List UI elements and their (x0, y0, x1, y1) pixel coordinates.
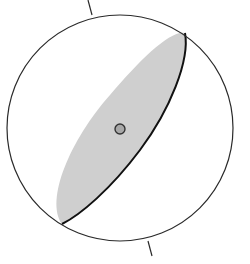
south-tick (148, 241, 152, 256)
pole-point (115, 124, 125, 134)
stereonet-diagram (0, 0, 250, 264)
stereonet-svg (0, 0, 250, 264)
north-tick (88, 0, 92, 15)
